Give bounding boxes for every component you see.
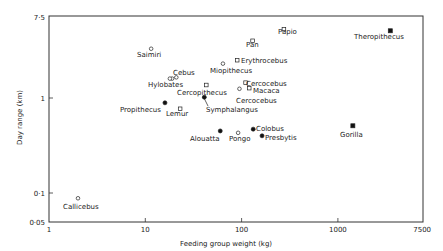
y-tick-label: 0·05	[29, 219, 45, 227]
filled-circle-marker-icon	[202, 95, 206, 99]
filled-circle-marker-icon	[260, 134, 264, 138]
data-point: Lemur	[166, 107, 188, 118]
data-point: Theropithecus	[353, 29, 404, 41]
data-point: Pan	[246, 39, 259, 49]
point-label: Callicebus	[63, 203, 99, 211]
open-circle-marker-icon	[76, 196, 80, 200]
x-axis-ticks: 11010010007500	[47, 218, 431, 234]
y-tick-label: 1	[41, 95, 45, 103]
point-label: Colobus	[256, 125, 284, 133]
open-square-marker-icon	[247, 86, 251, 90]
scatter-chart: 11010010007500 0·050·117·5 Feeding group…	[0, 0, 443, 251]
filled-circle-marker-icon	[218, 129, 222, 133]
point-label: Theropithecus	[353, 33, 404, 41]
point-label: Alouatta	[190, 135, 220, 143]
x-axis-title: Feeding group weight (kg)	[180, 240, 272, 248]
data-point: Hylobates	[148, 77, 183, 89]
y-tick-label: 7·5	[34, 14, 45, 22]
point-label: Pan	[246, 41, 259, 49]
point-label: Saimiri	[137, 51, 161, 59]
point-label: Cercocebus	[236, 97, 277, 105]
x-tick-label: 1	[47, 226, 51, 234]
x-tick-label: 100	[235, 226, 248, 234]
data-point: Gorilla	[340, 124, 363, 139]
point-label: Cercopithecus	[177, 89, 227, 97]
filled-circle-marker-icon	[163, 101, 167, 105]
point-label: Propithecus	[120, 106, 161, 114]
filled-circle-marker-icon	[251, 127, 255, 131]
data-point: Cebus	[173, 69, 195, 79]
data-point: Macaca	[247, 86, 279, 95]
data-point: Alouatta	[190, 129, 222, 143]
point-label: Pongo	[229, 135, 250, 143]
point-label: Erythrocebus	[241, 57, 288, 65]
data-point: Propithecus	[120, 101, 167, 114]
data-point: Saimiri	[137, 47, 161, 59]
open-circle-marker-icon	[238, 87, 242, 91]
point-label: Macaca	[253, 87, 280, 95]
data-point: Cercopithecus	[177, 83, 227, 97]
plot-frame	[49, 16, 423, 222]
data-points: PapioTheropithecusPanSaimiriErythrocebus…	[63, 27, 404, 211]
y-axis-title: Day range (km)	[16, 90, 24, 145]
data-point: Papio	[278, 27, 297, 36]
data-point: Colobus	[251, 125, 284, 133]
open-square-marker-icon	[235, 58, 239, 62]
point-label: Presbytis	[265, 134, 297, 142]
x-tick-label: 10	[141, 226, 150, 234]
point-label: Cebus	[173, 69, 195, 77]
open-square-marker-icon	[205, 83, 209, 87]
point-label: Symphalangus	[206, 106, 258, 114]
point-label: Hylobates	[148, 81, 183, 89]
data-point: Erythrocebus	[235, 57, 287, 65]
data-point: Presbytis	[260, 134, 297, 142]
open-circle-marker-icon	[221, 62, 225, 66]
point-label: Papio	[278, 28, 297, 36]
point-label: Lemur	[166, 110, 188, 118]
y-tick-label: 0·1	[34, 190, 45, 198]
open-circle-marker-icon	[168, 77, 172, 81]
open-circle-marker-icon	[149, 47, 153, 51]
point-label: Gorilla	[340, 131, 363, 139]
data-point: Pongo	[229, 131, 250, 143]
point-label: Miopithecus	[210, 67, 252, 75]
x-tick-label: 1000	[329, 226, 347, 234]
x-tick-label: 7500	[413, 226, 431, 234]
data-point: Callicebus	[63, 196, 99, 211]
filled-square-marker-icon	[351, 124, 355, 128]
